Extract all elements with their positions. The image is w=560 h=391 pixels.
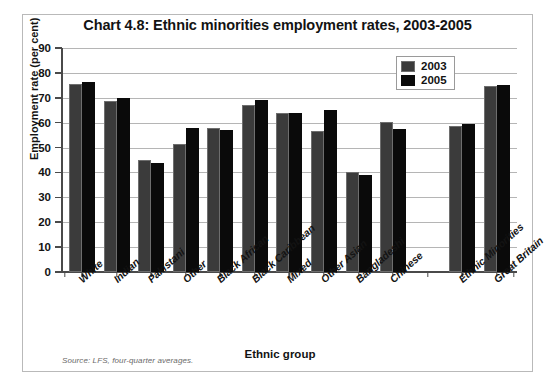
bar-2005-other-asian [324,110,337,272]
bar-2005-black-african [220,130,233,272]
y-tick-label-50: 50 [38,142,51,154]
bar-2005-white [82,82,95,272]
y-tick-50 [55,147,62,149]
bar-2003-other-asian [311,131,324,272]
legend-label-2005: 2005 [421,74,447,86]
bar-group-pakistani [134,48,169,272]
y-tick-0 [55,271,62,273]
y-tick-90 [55,47,62,49]
y-tick-20 [55,221,62,223]
y-tick-label-10: 10 [38,241,51,253]
y-tick-label-30: 30 [38,191,51,203]
y-tick-40 [55,172,62,174]
y-tick-label-80: 80 [38,67,51,79]
y-tick-10 [55,246,62,248]
chart-title: Chart 4.8: Ethnic minorities employment … [22,17,533,33]
bar-group-black-african [203,48,238,272]
bar-group-other-asian [307,48,342,272]
chart-figure: Chart 4.8: Ethnic minorities employment … [0,0,560,391]
bar-group-indian [100,48,135,272]
y-tick-label-40: 40 [38,166,51,178]
legend-swatch-2003 [401,61,415,72]
x-axis-category-labels: WhiteIndianPakistaniOtherBlack AfricanBl… [62,276,517,346]
y-tick-80 [55,72,62,74]
bar-2005-bangladeshi [359,175,372,272]
legend-item-2005: 2005 [401,74,447,86]
bar-2003-ethnic-minorities [449,126,462,272]
bar-2005-other [186,128,199,272]
legend-swatch-2005 [401,75,415,86]
legend: 2003 2005 [396,56,455,90]
source-note: Source: LFS, four-quarter averages. [62,356,193,365]
bar-group-other [169,48,204,272]
y-tick-label-70: 70 [38,92,51,104]
y-tick-label-60: 60 [38,117,51,129]
legend-item-2003: 2003 [401,60,447,72]
y-tick-label-0: 0 [45,266,51,278]
y-tick-70 [55,97,62,99]
bar-2005-indian [117,98,130,272]
bar-group-white [65,48,100,272]
y-tick-label-90: 90 [38,42,51,54]
bar-2003-white [69,84,82,272]
y-tick-30 [55,197,62,199]
bar-2003-indian [104,101,117,272]
bar-2003-black-african [207,128,220,272]
bar-2005-pakistani [151,163,164,273]
bar-2005-ethnic-minorities [462,124,475,272]
legend-label-2003: 2003 [421,60,447,72]
y-tick-60 [55,122,62,124]
y-tick-label-20: 20 [38,216,51,228]
bar-2003-pakistani [138,160,151,272]
y-axis-title: Employment rate (per cent) [28,18,40,160]
